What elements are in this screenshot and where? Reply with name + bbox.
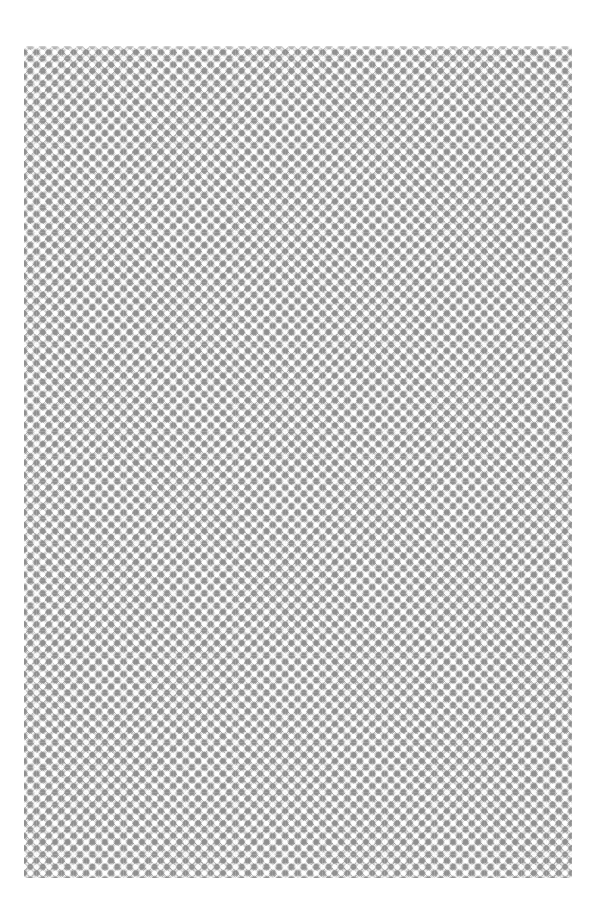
page-canvas [0, 0, 599, 921]
diamond-lattice-pattern-panel [24, 46, 572, 878]
pattern-top-edge [24, 46, 572, 50]
